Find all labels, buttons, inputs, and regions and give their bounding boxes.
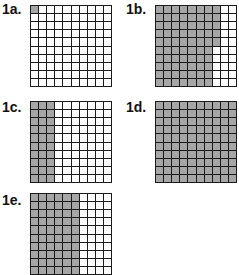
shaded-cell [47,251,55,259]
grid-cell [213,71,221,79]
shaded-cell [205,110,213,118]
grid-cell [213,55,221,63]
shaded-cell [205,71,213,79]
shaded-cell [31,267,39,275]
grid-cell [80,175,88,183]
shaded-cell [72,259,80,267]
grid-cell [80,210,88,218]
shaded-cell [31,175,39,183]
grid-cell [55,14,63,22]
grid-cell [104,226,112,234]
shaded-cell [63,251,71,259]
shaded-cell [55,235,63,243]
shaded-cell [72,202,80,210]
grid-cell [88,47,96,55]
shaded-cell [188,126,196,134]
figure-label-1d: 1d. [126,100,146,114]
shaded-cell [172,175,180,183]
shaded-cell [164,102,172,110]
shaded-cell [156,38,164,46]
grid-cell [80,79,88,87]
shaded-cell [39,159,47,167]
shaded-cell [172,118,180,126]
shaded-cell [47,167,55,175]
shaded-cell [221,175,229,183]
grid-cell [80,63,88,71]
shaded-cell [47,151,55,159]
shaded-cell [72,267,80,275]
shaded-cell [221,102,229,110]
shaded-cell [205,55,213,63]
grid-cell [88,55,96,63]
shaded-cell [205,30,213,38]
shaded-cell [39,118,47,126]
shaded-cell [197,6,205,14]
shaded-cell [164,71,172,79]
shaded-cell [197,110,205,118]
grid-cell [80,22,88,30]
grid-cell [96,134,104,142]
shaded-cell [172,167,180,175]
grid-cell [39,71,47,79]
grid-cell [72,38,80,46]
shaded-cell [31,151,39,159]
grid-cell [55,110,63,118]
grid-cell [72,14,80,22]
shaded-cell [172,126,180,134]
shaded-cell [197,126,205,134]
grid-cell [80,218,88,226]
grid-cell [213,79,221,87]
shaded-cell [164,134,172,142]
grid-cell [229,38,237,46]
grid-cell [229,47,237,55]
shaded-cell [156,55,164,63]
shaded-cell [47,134,55,142]
shaded-cell [156,134,164,142]
shaded-cell [205,167,213,175]
shaded-cell [39,267,47,275]
grid-cell [55,151,63,159]
shaded-cell [63,210,71,218]
shaded-cell [39,194,47,202]
shaded-cell [229,134,237,142]
shaded-cell [180,167,188,175]
grid-cell [72,134,80,142]
grid-cell [96,259,104,267]
grid-cell [63,22,71,30]
grid-cell [96,47,104,55]
grid-cell [55,47,63,55]
shaded-cell [156,79,164,87]
grid-cell [55,71,63,79]
grid-cell [88,267,96,275]
grid-cell [80,6,88,14]
grid-cell [63,167,71,175]
grid-cell [104,47,112,55]
grid-cell [63,151,71,159]
shaded-cell [229,151,237,159]
shaded-cell [63,226,71,234]
shaded-cell [180,151,188,159]
shaded-cell [172,55,180,63]
hundreds-grid-1d [155,101,237,183]
grid-cell [96,235,104,243]
shaded-cell [39,151,47,159]
grid-cell [88,159,96,167]
grid-cell [221,30,229,38]
grid-cell [96,38,104,46]
shaded-cell [31,134,39,142]
grid-cell [63,126,71,134]
grid-cell [88,22,96,30]
shaded-cell [72,210,80,218]
shaded-cell [197,118,205,126]
grid-cell [31,38,39,46]
grid-cell [39,14,47,22]
shaded-cell [31,167,39,175]
shaded-cell [188,30,196,38]
grid-cell [80,102,88,110]
shaded-cell [197,38,205,46]
grid-cell [96,110,104,118]
grid-cell [96,267,104,275]
shaded-cell [39,243,47,251]
shaded-cell [172,30,180,38]
grid-cell [80,194,88,202]
